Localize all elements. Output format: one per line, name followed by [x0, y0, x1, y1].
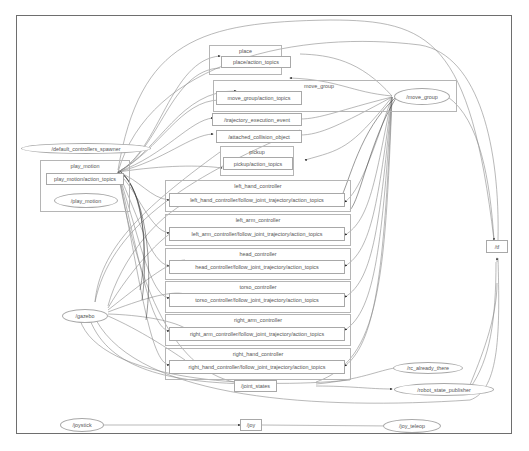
- topic-right-hand-controller-action-topics[interactable]: right_hand_controller/follow_joint_traje…: [169, 360, 345, 374]
- topic-play-motion-action-topics[interactable]: play_motion/action_topics: [46, 173, 124, 185]
- topic-pickup-action-topics[interactable]: pickup/action_topics: [223, 157, 293, 170]
- cluster-label: head_controller: [166, 251, 350, 257]
- cluster-label: left_hand_controller: [166, 183, 350, 189]
- node-robot-state-publisher[interactable]: /robot_state_publisher: [394, 383, 494, 396]
- cluster-label: right_arm_controller: [166, 317, 350, 323]
- topic-trajectory-execution-event[interactable]: /trajectory_execution_event: [212, 113, 302, 126]
- cluster-label: torso_controller: [166, 284, 350, 290]
- topic-place-action-topics[interactable]: place/action_topics: [221, 56, 291, 68]
- node-rc-already-there[interactable]: /rc_already_there: [393, 362, 463, 374]
- node-gazebo[interactable]: /gazebo: [62, 309, 108, 323]
- topic-move-group-action-topics[interactable]: move_group/action_topics: [216, 91, 302, 105]
- topic-attached-collision-object[interactable]: /attached_collision_object: [216, 130, 302, 143]
- node-joystick[interactable]: /joystick: [60, 418, 104, 432]
- node-joy-teleop[interactable]: /joy_teleop: [383, 419, 441, 433]
- cluster-label: right_hand_controller: [166, 351, 350, 357]
- topic-tf[interactable]: /tf: [486, 240, 508, 253]
- topic-right-arm-controller-action-topics[interactable]: right_arm_controller/follow_joint_trajec…: [169, 327, 345, 341]
- topic-head-controller-action-topics[interactable]: head_controller/follow_joint_trajectory/…: [169, 260, 345, 274]
- node-default-controllers-spawner[interactable]: /default_controllers_spawner: [21, 143, 151, 154]
- cluster-label: move_group: [304, 83, 334, 89]
- ros-computation-graph: place move_group pickup play_motion left…: [0, 0, 529, 451]
- topic-left-arm-controller-action-topics[interactable]: left_arm_controller/follow_joint_traject…: [169, 227, 345, 241]
- cluster-label: play_motion: [41, 163, 129, 169]
- cluster-label: place: [210, 48, 281, 54]
- cluster-label: pickup: [221, 149, 293, 155]
- topic-joint-states[interactable]: /joint_states: [234, 380, 277, 392]
- topic-torso-controller-action-topics[interactable]: torso_controller/follow_joint_trajectory…: [169, 293, 345, 307]
- topic-joy[interactable]: /joy: [240, 419, 262, 431]
- cluster-label: left_arm_controller: [166, 217, 350, 223]
- node-move-group[interactable]: /move_group: [394, 88, 450, 105]
- topic-left-hand-controller-action-topics[interactable]: left_hand_controller/follow_joint_trajec…: [169, 193, 345, 207]
- node-play-motion[interactable]: /play_motion: [54, 193, 118, 208]
